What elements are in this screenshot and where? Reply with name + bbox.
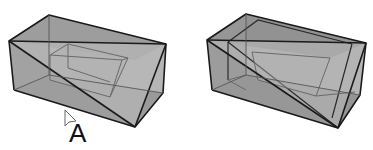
right-box [207, 14, 366, 128]
panel-label-a: A [69, 120, 86, 146]
left-box [9, 15, 166, 127]
diagram-canvas [0, 0, 373, 150]
